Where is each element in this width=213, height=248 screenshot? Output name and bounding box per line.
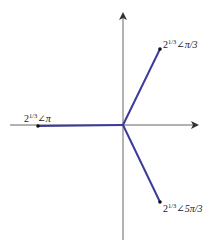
root-point-pi-over-3 [158, 47, 162, 51]
root-vector-pi [38, 125, 123, 126]
root-label-5pi-over-3: 21/3∠5π/3 [163, 202, 203, 214]
root-point-pi [36, 124, 40, 128]
root-label-pi-over-3: 21/3∠π/3 [163, 38, 198, 50]
root-vector-5pi-over-3 [123, 125, 160, 202]
root-point-5pi-over-3 [158, 200, 162, 204]
complex-plane-diagram: 21/3∠π/3 21/3∠π 21/3∠5π/3 [0, 0, 213, 248]
root-label-pi: 21/3∠π [24, 112, 52, 124]
root-vector-pi-over-3 [123, 49, 160, 125]
